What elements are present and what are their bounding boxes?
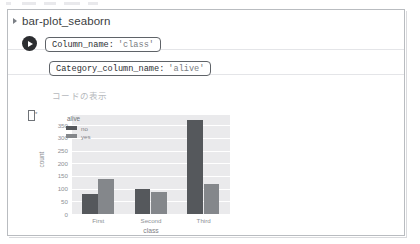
chart-bar [204, 184, 220, 214]
chart-xlabel: class [143, 227, 159, 234]
cell-header[interactable]: bar-plot_seaborn [8, 10, 404, 31]
chart-legend-swatch [66, 134, 77, 138]
play-icon [28, 41, 33, 47]
form-field-column-name-label: Column_name: [52, 40, 114, 50]
chart-output: count 050100150200250300350 FirstSecondT… [38, 109, 233, 237]
chart-legend-item: yes [66, 132, 114, 140]
triangle-right-icon[interactable] [13, 18, 17, 24]
form-field-column-name[interactable]: Column_name: 'class' [45, 37, 161, 52]
chart-legend: alive noyes [66, 115, 114, 140]
notebook-cell-panel: bar-plot_seaborn Column_name: 'class' Ca… [7, 9, 405, 236]
chart-legend-label: no [81, 125, 88, 132]
gridline [72, 151, 230, 152]
screenshot-root: bar-plot_seaborn Column_name: 'class' Ca… [0, 0, 420, 244]
chart-ytick-label: 100 [46, 185, 68, 192]
chart-bar [151, 192, 167, 214]
chart-ytick-label: 350 [46, 122, 68, 129]
chart-legend-item: no [66, 124, 114, 132]
chart-ytick-label: 300 [46, 134, 68, 141]
chart-xtick-label: Third [197, 217, 211, 224]
chart-ytick-label: 0 [46, 211, 68, 218]
chart-bar [82, 194, 98, 214]
chart-bar [187, 120, 203, 214]
top-edge-artifacts [6, 0, 126, 8]
chart-xtick-label: Second [141, 217, 162, 224]
chart-yticks: 050100150200250300350 [42, 109, 68, 214]
chart-ytick-label: 250 [46, 147, 68, 154]
show-code-link[interactable]: コードの表示 [52, 89, 108, 101]
chart-legend-label: yes [81, 133, 91, 140]
chart-ytick-label: 200 [46, 160, 68, 167]
chart-legend-entries: noyes [66, 124, 114, 140]
chart-ytick-label: 150 [46, 172, 68, 179]
form-field-category-column-name-value[interactable]: 'alive' [168, 64, 204, 74]
chart-legend-title: alive [66, 115, 114, 122]
chart-bar [98, 179, 114, 214]
chart-bar [135, 189, 151, 214]
gridline [72, 163, 230, 164]
form-field-category-column-name[interactable]: Category_column_name: 'alive' [49, 61, 211, 76]
chart-ytick-label: 50 [46, 198, 68, 205]
run-cell-button[interactable] [22, 36, 37, 51]
chart-xtick-label: First [92, 217, 104, 224]
form-field-column-name-value[interactable]: 'class' [118, 40, 154, 50]
gridline [72, 176, 230, 177]
form-field-category-column-name-label: Category_column_name: [56, 64, 164, 74]
page-title: bar-plot_seaborn [22, 15, 111, 27]
chart-legend-swatch [66, 126, 77, 130]
